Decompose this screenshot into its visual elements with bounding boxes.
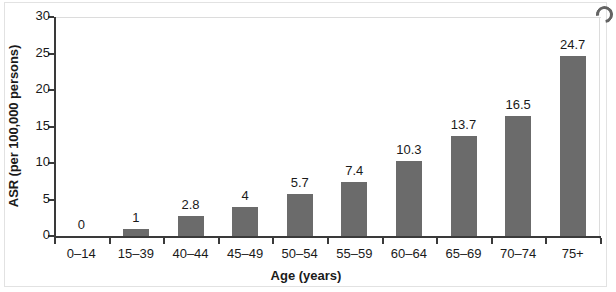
x-tick-label: 0–14 bbox=[67, 246, 96, 261]
bar-value-label: 2.8 bbox=[181, 197, 199, 212]
x-tick-mark bbox=[163, 238, 165, 244]
x-tick-label: 45–49 bbox=[227, 246, 263, 261]
x-tick-label: 70–74 bbox=[500, 246, 536, 261]
bar-value-label: 0 bbox=[78, 217, 85, 232]
bar bbox=[396, 161, 422, 236]
x-tick-label: 60–64 bbox=[391, 246, 427, 261]
x-tick-label: 55–59 bbox=[336, 246, 372, 261]
bar-value-label: 13.7 bbox=[451, 117, 476, 132]
x-axis-title: Age (years) bbox=[0, 268, 612, 283]
bar bbox=[123, 229, 149, 236]
bar-value-label: 4 bbox=[241, 188, 248, 203]
x-tick-mark bbox=[54, 238, 56, 244]
bar bbox=[451, 136, 477, 236]
x-tick-mark bbox=[327, 238, 329, 244]
plot-area: 051015202530 012.845.77.410.313.716.524.… bbox=[54, 17, 600, 238]
y-tick-label: 30 bbox=[36, 8, 50, 23]
y-tick-label: 0 bbox=[43, 227, 50, 242]
y-axis-title: ASR (per 100,000 persons) bbox=[2, 7, 24, 245]
x-tick-mark bbox=[218, 238, 220, 244]
bar bbox=[178, 216, 204, 236]
bar bbox=[341, 182, 367, 236]
bar bbox=[287, 194, 313, 236]
x-tick-mark bbox=[491, 238, 493, 244]
y-tick-label: 20 bbox=[36, 81, 50, 96]
x-tick-mark bbox=[436, 238, 438, 244]
bar bbox=[505, 116, 531, 236]
bar bbox=[560, 56, 586, 236]
x-tick-label: 40–44 bbox=[172, 246, 208, 261]
plot-frame-right bbox=[599, 17, 600, 239]
bar-value-label: 5.7 bbox=[291, 175, 309, 190]
bar-value-label: 16.5 bbox=[505, 97, 530, 112]
x-tick-mark bbox=[600, 238, 602, 244]
x-tick-label: 15–39 bbox=[118, 246, 154, 261]
x-tick-mark bbox=[545, 238, 547, 244]
y-tick-label: 25 bbox=[36, 45, 50, 60]
x-tick-label: 50–54 bbox=[282, 246, 318, 261]
x-tick-mark bbox=[382, 238, 384, 244]
y-tick-label: 10 bbox=[36, 154, 50, 169]
x-tick-mark bbox=[109, 238, 111, 244]
y-tick-label: 5 bbox=[43, 191, 50, 206]
bar-value-label: 10.3 bbox=[396, 142, 421, 157]
x-tick-label: 75+ bbox=[562, 246, 584, 261]
plot-frame-top bbox=[54, 17, 601, 18]
x-tick-label: 65–69 bbox=[445, 246, 481, 261]
bar-value-label: 24.7 bbox=[560, 37, 585, 52]
bar-value-label: 1 bbox=[132, 210, 139, 225]
x-tick-mark bbox=[272, 238, 274, 244]
y-axis-line bbox=[54, 17, 56, 239]
bar bbox=[232, 207, 258, 236]
bar-value-label: 7.4 bbox=[345, 163, 363, 178]
y-tick-label: 15 bbox=[36, 118, 50, 133]
